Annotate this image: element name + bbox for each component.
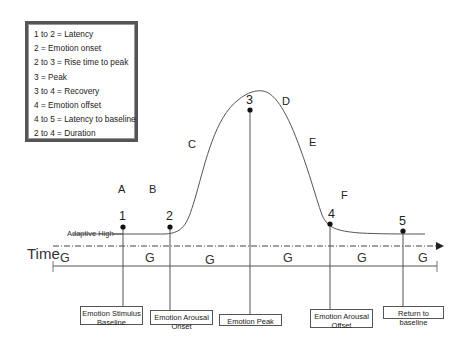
legend-item: 3 = Peak — [34, 70, 135, 84]
region-label-a: A — [118, 183, 125, 195]
g-label: G — [60, 251, 70, 265]
label-box-emotion-peak: Emotion Peak — [219, 314, 282, 326]
g-label: G — [205, 253, 215, 267]
box-line: Emotion Arousal — [311, 312, 372, 321]
point-label-2: 2 — [166, 209, 173, 223]
g-label: G — [418, 251, 428, 265]
box-line: Return to baseline — [384, 309, 443, 327]
time-axis-label: Time — [27, 245, 60, 262]
arrow-head-icon — [436, 242, 444, 250]
legend-item: 2 to 4 = Duration — [34, 126, 135, 140]
box-line: Offset — [311, 321, 372, 330]
region-label-b: B — [149, 183, 156, 195]
box-line: Emotion Arousal — [151, 313, 212, 322]
legend-box: 1 to 2 = Latency 2 = Emotion onset 2 to … — [25, 21, 138, 142]
legend-item: 4 = Emotion offset — [34, 98, 135, 112]
g-label: G — [145, 251, 155, 265]
point-label-4: 4 — [328, 207, 335, 221]
adaptive-high-label: Adaptive High — [67, 229, 114, 238]
legend-item: 1 to 2 = Latency — [34, 27, 135, 41]
label-box-stimulus-baseline: Emotion Stimulus Baseline — [80, 306, 143, 325]
region-label-e: E — [309, 136, 316, 148]
point-2-marker — [167, 224, 172, 229]
legend-item: 4 to 5 = Latency to baseline — [34, 112, 135, 126]
box-line: Emotion Stimulus — [81, 309, 142, 318]
label-box-arousal-onset: Emotion Arousal Onset — [150, 310, 213, 325]
point-label-5: 5 — [399, 214, 406, 228]
legend-item: 2 = Emotion onset — [34, 41, 135, 55]
box-line: Onset — [151, 322, 212, 331]
region-label-c: C — [188, 138, 196, 150]
box-line: Emotion Peak — [220, 317, 281, 326]
g-label: G — [357, 251, 367, 265]
region-label-f: F — [341, 189, 348, 201]
legend-item: 3 to 4 = Recovery — [34, 84, 135, 98]
g-label: G — [283, 251, 293, 265]
label-box-arousal-offset: Emotion Arousal Offset — [310, 309, 373, 328]
legend-item: 2 to 3 = Rise time to peak — [34, 55, 135, 69]
label-box-return-baseline: Return to baseline — [383, 306, 444, 319]
point-4-marker — [327, 221, 332, 226]
box-line: Baseline — [81, 318, 142, 327]
point-1-marker — [120, 224, 125, 229]
point-label-1: 1 — [119, 209, 126, 223]
point-5-marker — [400, 228, 405, 233]
region-label-d: D — [282, 95, 290, 107]
point-3-marker — [247, 107, 252, 112]
point-label-3: 3 — [246, 93, 253, 107]
